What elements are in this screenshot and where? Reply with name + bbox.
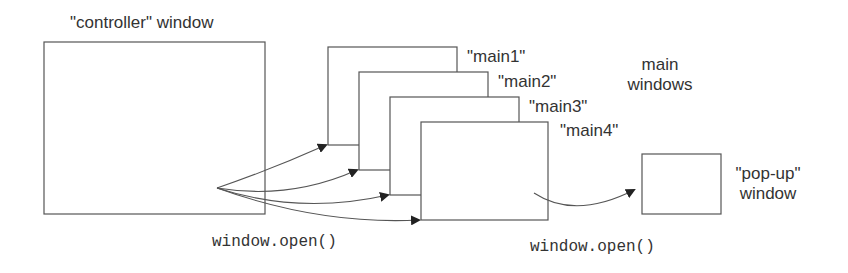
popup-label-line1: "pop-up" bbox=[728, 164, 808, 184]
main1-label: "main1" bbox=[467, 47, 525, 67]
controller-window-box bbox=[44, 42, 265, 214]
diagram-graphics bbox=[0, 0, 848, 273]
popup-label-line2: window bbox=[728, 184, 808, 204]
main-windows-label-line1: main bbox=[620, 55, 700, 75]
window-open-diagram: "controller" window "main1" "main2" "mai… bbox=[0, 0, 848, 273]
arrow-to-popup bbox=[534, 190, 634, 206]
window-open-call-right: window.open() bbox=[530, 238, 655, 256]
popup-window-label: "pop-up" window bbox=[728, 164, 808, 203]
controller-window-label: "controller" window bbox=[70, 13, 213, 33]
window-open-call-left: window.open() bbox=[212, 233, 337, 251]
main2-label: "main2" bbox=[498, 72, 556, 92]
main4-window-box bbox=[421, 122, 548, 220]
main-windows-label: main windows bbox=[620, 55, 700, 94]
main-windows-label-line2: windows bbox=[620, 75, 700, 95]
main4-label: "main4" bbox=[560, 121, 618, 141]
main3-label: "main3" bbox=[529, 97, 587, 117]
popup-window-box bbox=[642, 154, 721, 214]
